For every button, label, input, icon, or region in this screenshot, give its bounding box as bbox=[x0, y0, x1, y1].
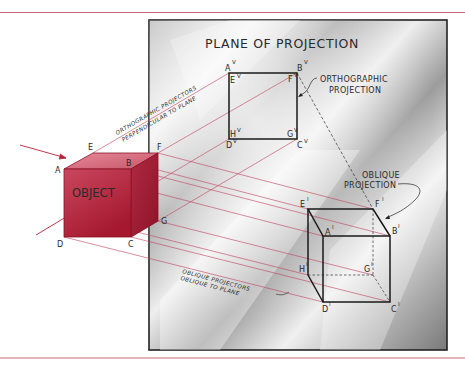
svg-text:G: G bbox=[287, 130, 293, 139]
svg-text:V: V bbox=[232, 59, 236, 65]
svg-text:F: F bbox=[375, 200, 380, 209]
object-cube: OBJECT bbox=[64, 153, 158, 237]
svg-text:G: G bbox=[161, 217, 167, 226]
svg-text:F: F bbox=[157, 143, 162, 152]
svg-text:ORTHOGRAPHIC: ORTHOGRAPHIC bbox=[320, 75, 388, 84]
svg-text:G: G bbox=[364, 265, 370, 274]
svg-text:D: D bbox=[57, 240, 63, 249]
svg-text:B: B bbox=[297, 64, 303, 73]
svg-text:V: V bbox=[233, 138, 237, 144]
svg-text:V: V bbox=[294, 72, 298, 78]
svg-text:E: E bbox=[230, 76, 235, 85]
svg-text:H: H bbox=[299, 265, 305, 274]
svg-text:C: C bbox=[297, 141, 303, 150]
svg-text:C: C bbox=[128, 240, 134, 249]
svg-text:V: V bbox=[304, 59, 308, 65]
svg-text:A: A bbox=[225, 64, 231, 73]
object-label: OBJECT bbox=[72, 186, 116, 200]
cube-front-face bbox=[64, 169, 131, 237]
svg-text:PROJECTION: PROJECTION bbox=[344, 181, 396, 190]
plane-title: PLANE OF PROJECTION bbox=[205, 36, 359, 51]
svg-text:E: E bbox=[300, 200, 305, 209]
svg-text:B: B bbox=[392, 227, 398, 236]
svg-text:B: B bbox=[126, 159, 132, 168]
svg-text:A: A bbox=[55, 166, 61, 175]
svg-text:V: V bbox=[237, 127, 241, 133]
svg-text:D: D bbox=[226, 141, 232, 150]
svg-text:C: C bbox=[391, 305, 397, 314]
projection-diagram: PLANE OF PROJECTION OBJECT A B D bbox=[0, 0, 465, 366]
svg-text:F: F bbox=[288, 75, 293, 84]
svg-text:V: V bbox=[294, 127, 298, 133]
svg-text:OBLIQUE: OBLIQUE bbox=[362, 171, 400, 180]
svg-text:A: A bbox=[325, 228, 331, 237]
svg-text:D: D bbox=[322, 305, 328, 314]
svg-text:E: E bbox=[88, 143, 93, 152]
svg-text:V: V bbox=[304, 138, 308, 144]
svg-text:V: V bbox=[237, 73, 241, 79]
svg-text:PROJECTION: PROJECTION bbox=[329, 86, 381, 95]
